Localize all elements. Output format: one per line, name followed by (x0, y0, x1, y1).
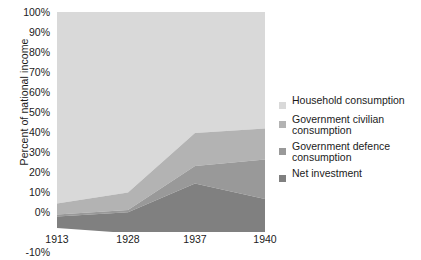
y-tick-label: 20% (8, 167, 50, 177)
legend-swatch-icon (279, 148, 286, 155)
chart-legend: Household consumption Government civilia… (279, 95, 419, 187)
legend-label: Government civilian consumption (292, 114, 414, 136)
x-tick-label-1928: 1928 (106, 234, 150, 245)
chart-figure: Percent of national income 100% 90% 80% … (0, 0, 421, 260)
y-tick-label: 10% (8, 187, 50, 197)
legend-item-household-consumption: Household consumption (279, 95, 419, 109)
y-tick-label: 70% (8, 67, 50, 77)
x-tick-label-1913: 1913 (35, 234, 79, 245)
legend-item-government-civilian-consumption: Government civilian consumption (279, 114, 419, 136)
y-tick-label: 50% (8, 107, 50, 117)
y-tick-label: 60% (8, 87, 50, 97)
legend-label: Net investment (292, 168, 362, 179)
y-tick-label: 40% (8, 127, 50, 137)
x-tick-label-1937: 1937 (173, 234, 217, 245)
legend-swatch-icon (279, 175, 286, 182)
legend-item-net-investment: Net investment (279, 168, 419, 182)
legend-item-government-defence-consumption: Government defence consumption (279, 141, 419, 163)
y-tick-label: 100% (8, 7, 50, 17)
x-tick-label-1940: 1940 (243, 234, 287, 245)
legend-label: Government defence consumption (292, 141, 414, 163)
y-tick-label: 30% (8, 147, 50, 157)
legend-swatch-icon (279, 102, 286, 109)
legend-swatch-icon (279, 121, 286, 128)
y-tick-label: 0% (8, 207, 50, 217)
legend-label: Household consumption (292, 95, 405, 106)
y-tick-label: -10% (8, 247, 50, 257)
y-axis-tick-labels: 100% 90% 80% 70% 60% 50% 40% 30% 20% 10%… (6, 0, 50, 260)
y-tick-label: 80% (8, 47, 50, 57)
y-tick-label: 90% (8, 27, 50, 37)
plot-area (57, 12, 265, 232)
stacked-area-svg (57, 12, 265, 232)
